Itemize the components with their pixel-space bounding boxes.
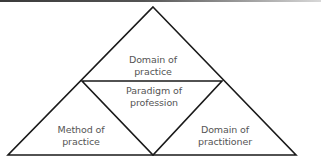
label-line: Paradigm of [126, 85, 182, 97]
label-line: Domain of [129, 54, 177, 66]
label-line: practice [58, 136, 105, 148]
triangle-diagram [0, 0, 321, 166]
region-label-paradigm-of-profession: Paradigm of profession [126, 85, 182, 109]
region-label-domain-of-practice: Domain of practice [129, 54, 177, 78]
label-line: practitioner [198, 136, 252, 148]
label-line: practice [129, 66, 177, 78]
region-label-domain-of-practitioner: Domain of practitioner [198, 124, 252, 148]
label-line: Domain of [198, 124, 252, 136]
label-line: profession [126, 97, 182, 109]
label-line: Method of [58, 124, 105, 136]
region-label-method-of-practice: Method of practice [58, 124, 105, 148]
